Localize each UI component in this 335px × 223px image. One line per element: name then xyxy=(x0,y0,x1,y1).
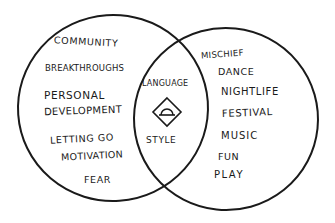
left-item-fear: FEAR xyxy=(84,175,111,185)
left-item-breakthroughs: BREAKTHROUGHS xyxy=(45,64,124,73)
left-item-personal: PERSONAL xyxy=(44,90,105,101)
right-item-festival: FESTIVAL xyxy=(222,107,273,119)
right-item-music: MUSIC xyxy=(221,131,258,141)
intersection-label-language: LANGUAGE xyxy=(142,80,188,88)
right-item-dance: DANCE xyxy=(218,67,254,77)
diamond-with-dome-icon xyxy=(151,96,183,128)
venn-diagram: COMMUNITY BREAKTHROUGHS PERSONAL DEVELOP… xyxy=(0,0,335,223)
right-item-nightlife: NIGHTLIFE xyxy=(221,87,279,97)
intersection-label-style: STYLE xyxy=(146,136,176,145)
right-item-play: PLAY xyxy=(214,170,244,180)
right-item-fun: FUN xyxy=(218,152,239,162)
